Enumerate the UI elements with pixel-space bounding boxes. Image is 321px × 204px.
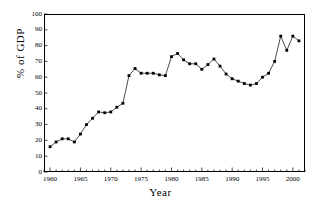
x-tick-label: 1995 xyxy=(249,176,277,183)
data-point xyxy=(146,72,149,75)
x-axis-title: Year xyxy=(0,186,321,198)
data-point xyxy=(237,80,240,83)
data-point xyxy=(200,68,203,71)
data-point xyxy=(164,74,167,77)
data-point xyxy=(243,82,246,85)
data-point xyxy=(206,63,209,66)
data-series-line xyxy=(50,36,299,147)
x-tick-label: 1985 xyxy=(188,176,216,183)
x-tick-label: 1975 xyxy=(127,176,155,183)
data-point xyxy=(61,137,64,140)
chart-figure: 0102030405060708090100 19601965197019751… xyxy=(0,0,321,204)
chart-canvas xyxy=(0,0,321,204)
y-tick-label: 20 xyxy=(20,137,42,144)
data-point xyxy=(231,77,234,80)
data-point xyxy=(219,65,222,68)
x-tick-label: 1980 xyxy=(157,176,185,183)
data-point xyxy=(267,72,270,75)
data-series-markers xyxy=(49,35,301,148)
data-point xyxy=(285,49,288,52)
data-point xyxy=(158,73,161,76)
data-point xyxy=(249,84,252,87)
y-axis-ticks xyxy=(44,14,48,172)
data-point xyxy=(140,72,143,75)
data-point xyxy=(225,73,228,76)
y-axis-title: % of GDP xyxy=(13,0,27,133)
data-point xyxy=(97,111,100,114)
data-point xyxy=(176,52,179,55)
data-point xyxy=(170,55,173,58)
y-axis-title-wrap: % of GDP xyxy=(13,0,27,133)
data-point xyxy=(122,102,125,105)
data-point xyxy=(73,141,76,144)
x-tick-label: 2000 xyxy=(279,176,307,183)
data-point xyxy=(55,141,58,144)
y-tick-label: 10 xyxy=(20,153,42,160)
data-point xyxy=(109,111,112,114)
x-tick-label: 1965 xyxy=(66,176,94,183)
data-point xyxy=(291,35,294,38)
data-point xyxy=(182,58,185,61)
data-point xyxy=(79,133,82,136)
data-point xyxy=(67,137,70,140)
data-point xyxy=(134,67,137,70)
data-point xyxy=(298,39,301,42)
data-point xyxy=(279,35,282,38)
data-point xyxy=(261,76,264,79)
y-tick-label: 0 xyxy=(20,169,42,176)
data-point xyxy=(85,123,88,126)
x-axis-ticks xyxy=(44,168,305,173)
x-tick-label: 1990 xyxy=(218,176,246,183)
data-point xyxy=(255,82,258,85)
data-point xyxy=(91,117,94,120)
data-point xyxy=(194,62,197,65)
data-point xyxy=(128,74,131,77)
data-point xyxy=(49,145,52,148)
data-point xyxy=(103,111,106,114)
data-point xyxy=(273,60,276,63)
data-point xyxy=(188,62,191,65)
data-point xyxy=(152,72,155,75)
data-point xyxy=(213,58,216,61)
data-point xyxy=(115,106,118,109)
x-tick-label: 1970 xyxy=(97,176,125,183)
x-tick-label: 1960 xyxy=(36,176,64,183)
